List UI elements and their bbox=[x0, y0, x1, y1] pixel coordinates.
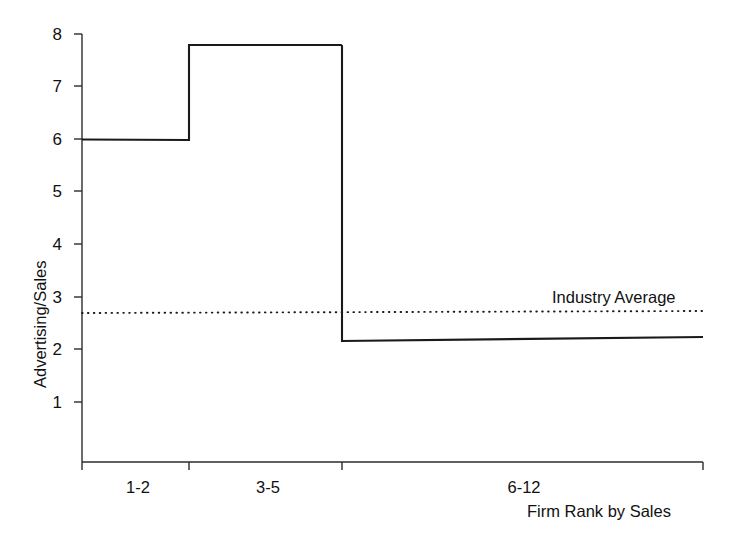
industry-average-reference-line bbox=[82, 311, 703, 313]
x-tick-label-3-5: 3-5 bbox=[256, 479, 280, 496]
y-tick-label-8: 8 bbox=[36, 26, 62, 43]
y-tick-label-5: 5 bbox=[36, 183, 62, 200]
x-axis-title: Firm Rank by Sales bbox=[527, 503, 671, 520]
y-tick-label-6: 6 bbox=[36, 131, 62, 148]
x-tick-label-1-2: 1-2 bbox=[126, 479, 150, 496]
y-tick-label-7: 7 bbox=[36, 78, 62, 95]
chart-figure: 8 7 6 5 4 3 2 1 1-2 3-5 6-12 Advertising… bbox=[0, 0, 736, 533]
y-axis-title: Advertising/Sales bbox=[32, 261, 49, 388]
y-tick-label-4: 4 bbox=[36, 236, 62, 253]
y-axis-ticks bbox=[74, 34, 82, 402]
chart-plot-area bbox=[0, 0, 736, 533]
x-axis-ticks bbox=[82, 462, 703, 470]
industry-average-label: Industry Average bbox=[552, 289, 676, 306]
x-tick-label-6-12: 6-12 bbox=[507, 479, 540, 496]
y-tick-label-1: 1 bbox=[36, 394, 62, 411]
